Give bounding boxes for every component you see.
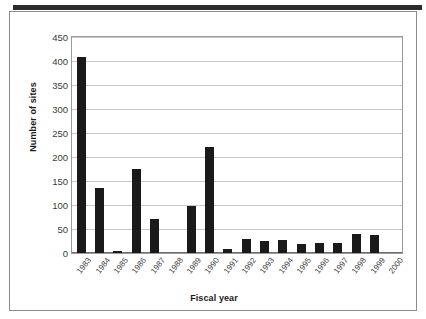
bar (77, 57, 86, 253)
x-tick-label: 1994 (277, 256, 295, 276)
y-tick-label: 300 (52, 104, 68, 115)
bar (278, 240, 287, 253)
y-tick-label: 350 (52, 80, 68, 91)
x-tick-label: 1998 (350, 256, 368, 276)
x-tick-label: 1988 (167, 256, 185, 276)
y-tick-label: 450 (52, 32, 68, 43)
bar (150, 219, 159, 253)
x-tick-label: 1987 (149, 256, 167, 276)
y-tick-label: 250 (52, 128, 68, 139)
bar-series (72, 37, 402, 253)
x-tick-label: 1999 (369, 256, 387, 276)
x-tick-label: 1986 (130, 256, 148, 276)
bar (333, 243, 342, 253)
y-tick-label: 0 (63, 248, 68, 259)
bar (260, 241, 269, 253)
bar-chart: Number of sites 050100150200250300350400… (10, 12, 418, 312)
y-tick-label: 100 (52, 200, 68, 211)
bar (223, 249, 232, 253)
y-tick-label: 400 (52, 56, 68, 67)
x-tick-label: 1984 (94, 256, 112, 276)
bar (352, 234, 361, 253)
x-axis-title: Fiscal year (10, 293, 418, 303)
x-tick-label: 1983 (75, 256, 93, 276)
y-tick-label: 50 (57, 224, 68, 235)
x-tick-label: 1993 (258, 256, 276, 276)
x-tick-label: 1985 (112, 256, 130, 276)
bar (242, 239, 251, 253)
x-axis-tick-labels: 1983198419851986198719881989199019911992… (71, 256, 403, 292)
bar (132, 169, 141, 253)
x-tick-label: 1991 (222, 256, 240, 276)
bar (297, 244, 306, 253)
plot-area: 050100150200250300350400450 (71, 36, 403, 254)
bar (370, 235, 379, 253)
scanned-figure-page: Number of sites 050100150200250300350400… (0, 0, 426, 319)
bar (113, 251, 122, 253)
bar (315, 243, 324, 253)
x-tick-label: 1989 (185, 256, 203, 276)
x-tick-label: 1997 (332, 256, 350, 276)
figure-frame: Number of sites 050100150200250300350400… (9, 11, 417, 311)
x-tick-label: 2000 (387, 256, 405, 276)
x-tick-label: 1992 (240, 256, 258, 276)
y-axis-title: Number of sites (28, 57, 38, 177)
x-tick-label: 1996 (313, 256, 331, 276)
scan-edge-bar (13, 5, 422, 10)
x-tick-label: 1990 (203, 256, 221, 276)
y-tick-label: 150 (52, 176, 68, 187)
bar (95, 188, 104, 253)
bar (205, 147, 214, 253)
y-tick-label: 200 (52, 152, 68, 163)
bar (187, 206, 196, 253)
x-tick-label: 1995 (295, 256, 313, 276)
